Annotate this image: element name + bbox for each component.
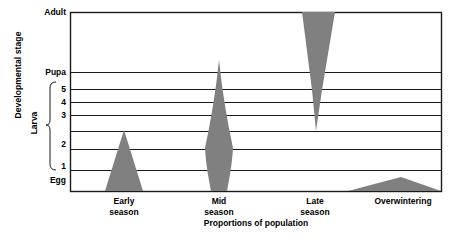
x-tick-overwintering: Overwintering bbox=[357, 196, 449, 207]
x-tick-late-season: Late season bbox=[283, 196, 347, 218]
chart-figure: Adult Pupa 5 4 3 2 1 Egg Developmental s… bbox=[0, 0, 451, 242]
x-tick-early-season: Early season bbox=[92, 196, 156, 218]
larva-bracket-icon bbox=[46, 82, 56, 170]
x-tick-mid-season: Mid season bbox=[187, 196, 251, 218]
x-axis-title: Proportions of population bbox=[70, 218, 442, 228]
